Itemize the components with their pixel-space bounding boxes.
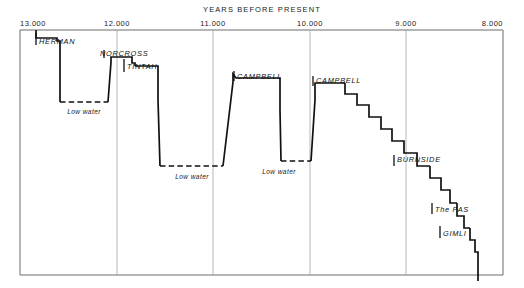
plot-frame — [20, 30, 503, 275]
stage-label-norcross: NORCROSS — [100, 49, 148, 58]
stage-label-burnside: BURNSIDE — [397, 155, 441, 164]
x-tick-label-11000: 11.000 — [200, 19, 225, 28]
x-tick-label-13000: 13.000 — [20, 19, 46, 28]
curve-campbell-1-segment — [223, 74, 281, 166]
low-water-label-2: Low water — [175, 173, 209, 180]
stage-label-gimli: GIMLI — [443, 229, 467, 238]
axis-title: YEARS BEFORE PRESENT — [203, 5, 321, 14]
curve-stepped-decline-upper — [345, 83, 430, 166]
stage-label-campbell-2: CAMPBELL — [316, 76, 361, 85]
curve-campbell-2-segment — [311, 83, 345, 161]
lake-level-stage-diagram: YEARS BEFORE PRESENT 13.000 12.000 11.00… — [0, 0, 524, 288]
x-tick-label-12000: 12.000 — [104, 19, 130, 28]
curve-stepped-decline-burnside — [430, 166, 457, 203]
low-water-label-1: Low water — [67, 108, 101, 115]
stage-label-campbell-1: CAMPBELL — [237, 72, 282, 81]
stage-label-tintah: TINTAH — [127, 62, 157, 71]
stage-label-herman: HERMAN — [39, 37, 75, 46]
x-tick-label-10000: 10.000 — [297, 19, 323, 28]
stage-label-the-pas: The PAS — [435, 205, 469, 214]
low-water-label-3: Low water — [262, 168, 296, 175]
curve-final-drainage — [470, 228, 478, 281]
curve-tintah-segment — [135, 66, 160, 166]
x-tick-label-9000: 9.000 — [395, 19, 416, 28]
x-tick-label-8000: 8.000 — [482, 19, 503, 28]
